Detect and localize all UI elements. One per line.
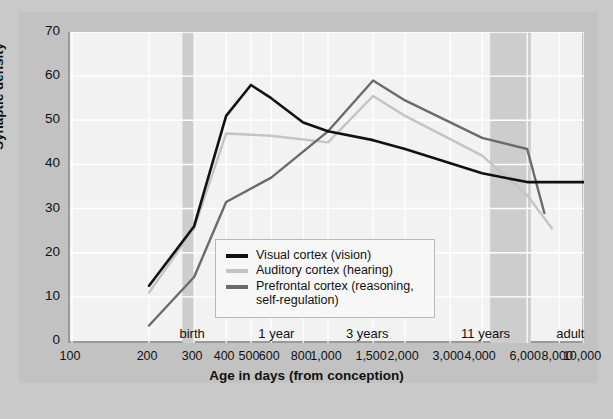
legend-swatch [226, 254, 248, 258]
stage-label: adult [556, 326, 584, 341]
x-tick-label: 1,000 [310, 349, 341, 363]
x-tick-label: 3,000 [433, 349, 464, 363]
x-tick-label: 10,000 [563, 349, 601, 363]
legend-swatch [226, 269, 248, 273]
legend-label: Visual cortex (vision) [256, 248, 371, 262]
x-tick-label: 100 [60, 349, 81, 363]
stage-label: 3 years [346, 326, 389, 341]
x-tick-label: 1,500 [355, 349, 386, 363]
y-tick-label: 30 [26, 200, 60, 215]
x-axis-title: Age in days (from conception) [0, 368, 613, 383]
legend-item: Prefrontal cortex (reasoning, self-regul… [226, 279, 422, 308]
legend-label: Prefrontal cortex (reasoning, self-regul… [256, 279, 422, 308]
chart-root: Synaptic density 010203040506070 Newborn… [0, 0, 613, 419]
y-tick-label: 0 [26, 332, 60, 347]
x-tick-label: 300 [182, 349, 203, 363]
legend-swatch [226, 285, 248, 289]
x-tick-label: 400 [214, 349, 235, 363]
x-tick-label: 2,000 [387, 349, 418, 363]
x-tick-label: 6,000 [510, 349, 541, 363]
chart-legend: Visual cortex (vision)Auditory cortex (h… [215, 239, 435, 318]
stage-label: 1 year [258, 326, 294, 341]
x-tick-label: 4,000 [464, 349, 495, 363]
legend-item: Auditory cortex (hearing) [226, 263, 422, 277]
x-tick-label: 600 [259, 349, 280, 363]
legend-label: Auditory cortex (hearing) [256, 263, 393, 277]
y-tick-label: 50 [26, 111, 60, 126]
y-tick-label: 70 [26, 23, 60, 38]
y-tick-label: 40 [26, 155, 60, 170]
x-tick-label: 800 [291, 349, 312, 363]
y-axis-title: Synaptic density [0, 43, 6, 150]
y-tick-label: 20 [26, 244, 60, 259]
y-tick-label: 10 [26, 288, 60, 303]
stage-label: 11 years [461, 326, 510, 341]
stage-label: birth [179, 326, 204, 341]
legend-item: Visual cortex (vision) [226, 248, 422, 262]
x-tick-label: 500 [238, 349, 259, 363]
y-tick-label: 60 [26, 67, 60, 82]
x-tick-label: 200 [137, 349, 158, 363]
